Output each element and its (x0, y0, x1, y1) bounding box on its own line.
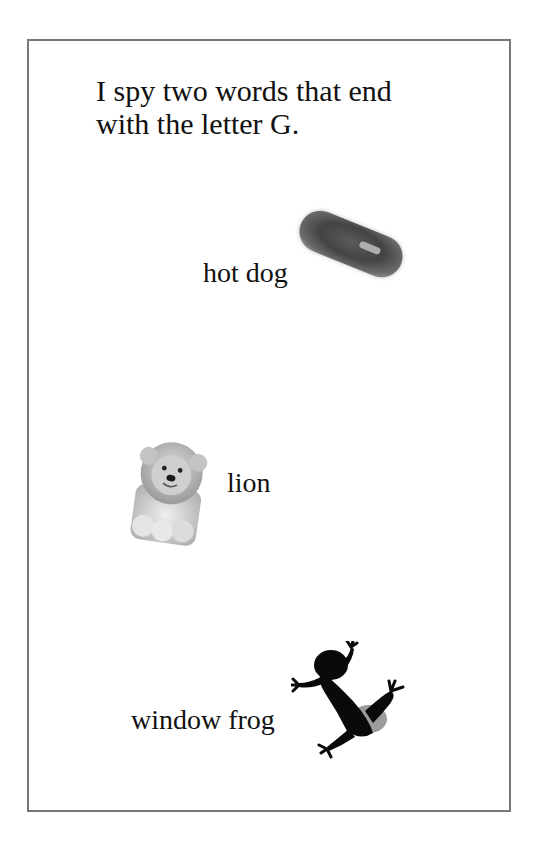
item-label-lion: lion (227, 468, 271, 498)
hot-dog-icon (293, 204, 409, 283)
prompt-line-2: with the letter G. (96, 107, 299, 140)
frog-icon (291, 641, 409, 759)
lion-icon (128, 437, 210, 547)
prompt-line-1: I spy two words that end (96, 74, 392, 107)
page-frame: I spy two words that end with the letter… (27, 39, 511, 812)
item-label-hot-dog: hot dog (203, 258, 288, 288)
prompt-text: I spy two words that end with the letter… (96, 74, 476, 140)
item-label-window-frog: window frog (131, 705, 275, 735)
